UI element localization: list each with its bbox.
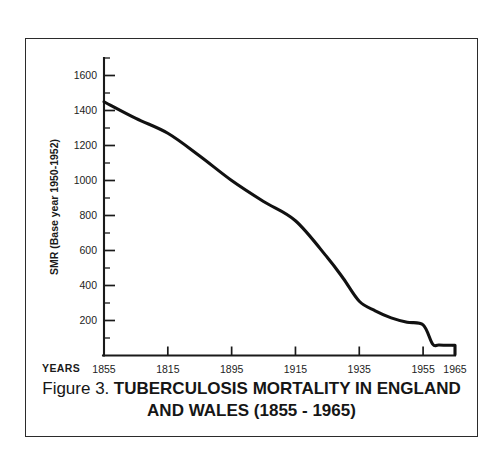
y-axis-tick-labels: 2004006008001000120014001600 bbox=[74, 69, 98, 326]
y-tick-label: 1200 bbox=[74, 139, 98, 151]
x-axis-ticks bbox=[104, 347, 455, 356]
x-tick-label: 1955 bbox=[411, 363, 435, 375]
x-tick-label: 1935 bbox=[348, 363, 372, 375]
y-axis-title: SMR (Base year 1950-1952) bbox=[48, 139, 60, 275]
caption-title: TUBERCULOSIS MORTALITY IN ENGLAND AND WA… bbox=[114, 379, 461, 420]
x-axis-tick-labels: 1855181518951915193519551965 bbox=[92, 363, 467, 375]
y-tick-label: 1400 bbox=[74, 104, 98, 116]
y-tick-label: 800 bbox=[79, 209, 97, 221]
mortality-trend-line bbox=[104, 102, 455, 355]
x-tick-label: 1895 bbox=[220, 363, 244, 375]
x-tick-label: 1915 bbox=[284, 363, 308, 375]
x-tick-label: 1815 bbox=[156, 363, 180, 375]
caption-prefix: Figure 3. bbox=[42, 379, 109, 398]
y-tick-label: 600 bbox=[79, 244, 97, 256]
figure-caption: Figure 3. TUBERCULOSIS MORTALITY IN ENGL… bbox=[30, 378, 473, 423]
y-tick-label: 1600 bbox=[74, 69, 98, 81]
y-tick-label: 1000 bbox=[74, 174, 98, 186]
y-tick-label: 200 bbox=[79, 314, 97, 326]
x-tick-label: 1855 bbox=[92, 363, 116, 375]
x-tick-label: 1965 bbox=[443, 363, 467, 375]
y-axis-ticks bbox=[104, 58, 115, 338]
y-tick-label: 400 bbox=[79, 279, 97, 291]
figure-container: SMR (Base year 1950-1952) YEARS 20040060… bbox=[0, 0, 493, 460]
x-axis-title: YEARS bbox=[42, 362, 80, 374]
